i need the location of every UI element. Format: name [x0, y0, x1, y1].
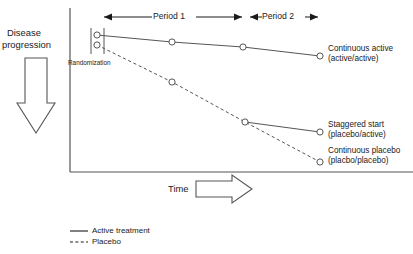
- series-continuous-placebo: [97, 45, 320, 162]
- data-point: [317, 53, 323, 59]
- y-axis-label-line1: Disease: [7, 27, 41, 39]
- randomization-label: Randomization: [68, 59, 111, 67]
- series-label-continuous-active-line2: (active/active): [328, 54, 379, 65]
- legend-label-placebo: Placebo: [92, 237, 121, 247]
- series-label-continuous-placebo-line2: (placbo/placebo): [328, 156, 389, 167]
- disease-progression-arrow: [17, 58, 55, 133]
- series-continuous-active: [97, 35, 320, 56]
- data-point: [242, 119, 248, 125]
- data-point: [94, 42, 100, 48]
- series-label-continuous-active-line1: Continuous active: [328, 44, 393, 55]
- data-point: [169, 79, 175, 85]
- data-point: [94, 32, 100, 38]
- figure-container: Disease progression Period 1 Period 2 Ra…: [0, 0, 413, 254]
- time-arrow: [196, 175, 252, 203]
- series-label-continuous-placebo-line1: Continuous placebo: [328, 146, 400, 157]
- data-point: [317, 159, 323, 165]
- data-point: [317, 129, 323, 135]
- legend-swatches: [70, 231, 88, 242]
- series-label-staggered-start-line1: Staggered start: [328, 120, 384, 131]
- period-1-label: Period 1: [153, 11, 185, 21]
- y-axis-label-line2: progression: [2, 39, 51, 51]
- legend-label-active-treatment: Active treatment: [92, 226, 150, 236]
- data-point: [169, 39, 175, 45]
- series-label-staggered-start-line2: (placebo/active): [328, 130, 386, 141]
- data-point: [240, 44, 246, 50]
- series-staggered-start: [245, 122, 320, 132]
- x-axis-label: Time: [168, 183, 188, 195]
- period-2-label: Period 2: [262, 11, 294, 21]
